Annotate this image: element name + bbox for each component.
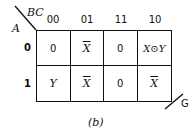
kmap-cell: X⊙Y: [138, 31, 172, 66]
kmap-grid: 0 X 0 X⊙Y Y X 0 X: [36, 30, 172, 102]
cell-value: X⊙Y: [143, 43, 165, 54]
cell-value: 0: [117, 43, 123, 54]
cell-value: X: [83, 42, 91, 55]
kmap-cell: Y: [37, 66, 71, 101]
column-header: 10: [138, 14, 172, 25]
figure-caption: (b): [88, 116, 104, 129]
kmap-cell: 0: [104, 66, 138, 101]
cell-value: X: [150, 77, 158, 90]
cell-value: X: [83, 77, 91, 90]
kmap-cell: 0: [37, 31, 71, 66]
column-header: 01: [70, 14, 104, 25]
kmap-cell: 0: [104, 31, 138, 66]
row-header: 0: [24, 42, 31, 53]
cell-value: 0: [50, 43, 56, 54]
column-header: 00: [36, 14, 70, 25]
kmap-cell: X: [71, 66, 105, 101]
row-header: 1: [24, 78, 31, 89]
column-header: 11: [104, 14, 138, 25]
row-variable-label: A: [12, 22, 20, 35]
kmap-cell: X: [71, 31, 105, 66]
cell-value: 0: [117, 78, 123, 89]
cell-value: Y: [50, 77, 57, 90]
output-label: G: [181, 98, 189, 109]
kmap-cell: X: [138, 66, 172, 101]
